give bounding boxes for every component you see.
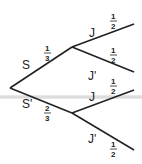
svg-text:1: 1 (111, 77, 116, 86)
edge-s (10, 47, 72, 88)
prob-upper-j: 1 2 (110, 12, 117, 31)
svg-text:3: 3 (45, 114, 50, 123)
edge-s-prime (10, 88, 72, 113)
svg-text:3: 3 (45, 54, 50, 63)
label-upper-j: J (89, 26, 95, 40)
edge-lower-j (72, 90, 134, 113)
prob-s: 1 3 (44, 44, 51, 63)
svg-text:1: 1 (111, 12, 116, 21)
label-s-prime: S' (22, 97, 32, 111)
svg-text:1: 1 (111, 140, 116, 149)
label-s: S (22, 58, 30, 72)
svg-text:2: 2 (111, 56, 116, 65)
label-upper-j-prime: J' (88, 69, 96, 83)
svg-text:2: 2 (111, 22, 116, 31)
prob-upper-j-prime: 1 2 (110, 46, 117, 65)
svg-text:1: 1 (45, 44, 50, 53)
edge-lower-j-prime (72, 113, 134, 150)
edge-upper-j-prime (72, 47, 134, 72)
label-lower-j: J (89, 90, 95, 104)
label-lower-j-prime: J' (88, 132, 96, 146)
svg-text:1: 1 (111, 46, 116, 55)
probability-tree-diagram: S 1 3 S' 2 3 J 1 2 J' 1 2 J 1 2 J' 1 2 (0, 0, 142, 164)
edge-upper-j (72, 24, 134, 47)
svg-text:2: 2 (111, 150, 116, 159)
prob-lower-j: 1 2 (110, 77, 117, 96)
prob-s-prime: 2 3 (44, 104, 51, 123)
svg-text:2: 2 (111, 87, 116, 96)
svg-text:2: 2 (45, 104, 50, 113)
prob-lower-j-prime: 1 2 (110, 140, 117, 159)
